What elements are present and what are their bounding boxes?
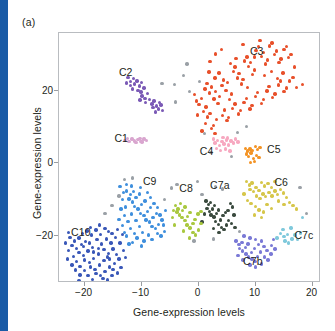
- data-point-C10: [75, 247, 78, 250]
- data-point-C9: [121, 224, 124, 227]
- data-point-C10: [86, 274, 89, 277]
- data-point-outliers: [163, 198, 166, 201]
- data-point-C3: [217, 71, 220, 74]
- data-point-C8: [188, 211, 191, 214]
- data-point-C1: [134, 141, 137, 144]
- cluster-label-c9: C9: [143, 175, 157, 187]
- data-point-C7a: [221, 214, 224, 217]
- data-point-C7a: [232, 213, 235, 216]
- data-point-C3: [205, 82, 208, 85]
- x-tick-mark: [312, 282, 313, 286]
- data-point-C3: [220, 48, 223, 51]
- data-point-C9: [156, 206, 159, 209]
- data-point-C3: [256, 91, 259, 94]
- data-point-C2: [152, 99, 155, 102]
- data-point-C2: [138, 98, 141, 101]
- data-point-C9: [125, 234, 128, 237]
- data-point-outliers: [200, 193, 203, 196]
- data-point-C7a: [225, 223, 228, 226]
- data-point-C5: [258, 146, 261, 149]
- data-point-C3: [273, 92, 276, 95]
- data-point-C3: [268, 44, 271, 47]
- data-point-C9: [121, 198, 124, 201]
- data-point-C3: [248, 107, 251, 110]
- data-point-C3: [275, 49, 278, 52]
- cluster-label-c2: C2: [119, 66, 133, 78]
- data-point-C3: [289, 53, 292, 56]
- data-point-C8: [171, 216, 174, 219]
- data-point-outliers: [174, 100, 177, 103]
- data-point-C3: [285, 45, 288, 48]
- data-point-C3: [250, 104, 253, 107]
- data-point-C3: [214, 90, 217, 93]
- data-point-C4: [222, 142, 225, 145]
- data-point-C9: [159, 234, 162, 237]
- data-point-C7b: [273, 247, 276, 250]
- data-point-outliers: [305, 212, 308, 215]
- data-point-C3: [262, 98, 265, 101]
- data-point-C10: [83, 258, 86, 261]
- data-point-C3: [260, 102, 263, 105]
- data-point-C2: [154, 110, 157, 113]
- data-point-C3: [224, 89, 227, 92]
- data-point-C3: [204, 122, 207, 125]
- data-point-C9: [118, 185, 121, 188]
- data-point-C7b: [262, 245, 265, 248]
- x-tick-mark: [198, 282, 199, 286]
- data-point-C8: [197, 228, 200, 231]
- data-point-C9: [134, 219, 137, 222]
- data-point-C6: [264, 195, 267, 198]
- data-point-C6: [253, 213, 256, 216]
- data-point-C7a: [215, 212, 218, 215]
- data-point-C10: [103, 270, 106, 273]
- x-tick-label: −10: [132, 287, 149, 298]
- cluster-label-c6: C6: [274, 176, 288, 188]
- data-point-C7b: [259, 250, 262, 253]
- data-point-C2: [146, 92, 149, 95]
- data-point-C3: [227, 116, 230, 119]
- scatter-plot-area: [58, 32, 320, 282]
- data-point-C2: [144, 101, 147, 104]
- data-point-C10: [97, 247, 100, 250]
- data-point-C7b: [236, 254, 239, 257]
- data-point-C3: [234, 57, 237, 60]
- panel-letter-label: (a): [22, 16, 35, 28]
- data-point-outliers: [160, 82, 163, 85]
- data-point-C3: [243, 59, 246, 62]
- data-point-C3: [241, 78, 244, 81]
- data-point-C9: [151, 216, 154, 219]
- data-point-C3: [265, 89, 268, 92]
- data-point-C5: [250, 149, 253, 152]
- data-point-C3: [225, 119, 228, 122]
- data-point-C10: [110, 232, 113, 235]
- data-point-C3: [277, 83, 280, 86]
- data-point-C3: [208, 112, 211, 115]
- data-point-C3: [246, 86, 249, 89]
- data-point-C10: [83, 269, 86, 272]
- data-point-C7b: [257, 243, 260, 246]
- data-point-C3: [212, 124, 215, 127]
- data-point-C3: [295, 86, 298, 89]
- data-point-C9: [131, 241, 134, 244]
- data-point-C10: [95, 238, 98, 241]
- data-point-C10: [106, 278, 109, 281]
- data-point-C3: [230, 92, 233, 95]
- data-point-C10: [98, 263, 101, 266]
- page-accent-bar: [0, 0, 8, 331]
- data-point-C10: [100, 242, 103, 245]
- data-point-C9: [136, 207, 139, 210]
- data-point-C6: [258, 197, 261, 200]
- data-point-C9: [125, 183, 128, 186]
- data-point-outliers: [230, 155, 233, 158]
- data-point-C9: [132, 190, 135, 193]
- data-point-C10: [118, 241, 121, 244]
- data-point-C3: [210, 127, 213, 130]
- data-point-C3: [197, 103, 200, 106]
- data-point-C4: [221, 136, 224, 139]
- data-point-C4: [218, 144, 221, 147]
- data-point-C10: [67, 231, 70, 234]
- data-point-C7b: [260, 239, 263, 242]
- y-tick-label: 0: [47, 157, 53, 168]
- data-point-C7a: [233, 226, 236, 229]
- data-point-C9: [134, 196, 137, 199]
